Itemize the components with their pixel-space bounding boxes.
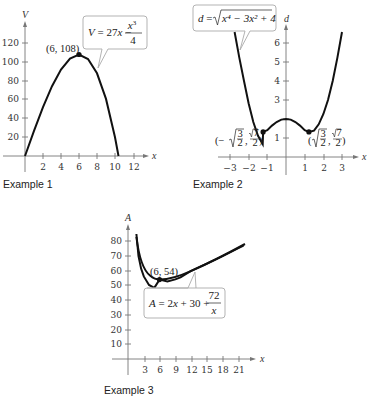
svg-text:): ) <box>342 135 346 147</box>
x-axis-label: x <box>259 353 265 364</box>
minimum-point-left <box>261 129 266 134</box>
y-tick-label: 50 <box>111 280 123 290</box>
minimum-point-label: (6, 54) <box>150 266 178 278</box>
y-tick-label: 80 <box>111 236 123 246</box>
x-tick-label: 12 <box>186 365 197 375</box>
y-tick-label: 70 <box>111 251 123 261</box>
minimum-point <box>157 277 162 282</box>
x-tick-label: 6 <box>76 162 82 172</box>
y-tick-label: 20 <box>8 132 20 142</box>
y-axis-arrow-icon <box>23 21 27 27</box>
x-tick-label: −3 <box>223 163 237 173</box>
y-ticks: 20 40 60 80 100 120 <box>2 38 28 142</box>
svg-text:2: 2 <box>320 137 325 148</box>
y-tick-label: 120 <box>2 38 19 48</box>
x-tick-label: 21 <box>233 365 244 375</box>
equation-callout: V = 27x − x3 4 <box>83 16 147 68</box>
x-tick-label: 3 <box>339 163 345 173</box>
example-1-chart: V x 20 40 60 80 100 120 2 4 6 <box>2 9 157 190</box>
example-2-chart: d x 1 3 4 5 6 −3 −2 −1 1 2 3 <box>193 5 367 190</box>
svg-text:,: , <box>245 135 248 146</box>
x-tick-label: 15 <box>201 365 213 375</box>
x-axis-arrow-icon <box>353 155 359 159</box>
example-3-chart: A x 10 20 30 40 50 60 70 80 <box>104 212 265 396</box>
example-1-caption: Example 1 <box>3 178 53 190</box>
volume-curve <box>25 55 119 157</box>
y-tick-label: 1 <box>274 133 280 143</box>
svg-text:2: 2 <box>252 137 257 148</box>
x-tick-label: 2 <box>321 163 327 173</box>
maximum-point-label: (6, 108) <box>46 43 80 55</box>
y-tick-label: 30 <box>111 310 123 320</box>
y-tick-label: 3 <box>274 95 280 105</box>
svg-text:(−: (− <box>215 135 224 147</box>
y-tick-label: 80 <box>8 76 20 86</box>
y-tick-label: 40 <box>8 113 20 123</box>
equation-numerator: 72 <box>209 289 220 301</box>
figure: V x 20 40 60 80 100 120 2 4 6 <box>0 0 382 400</box>
x-axis-label: x <box>151 150 157 161</box>
x-axis-arrow-icon <box>250 357 256 361</box>
distance-curve <box>235 32 342 144</box>
y-tick-label: 100 <box>2 57 19 67</box>
y-axis-label: d <box>284 13 290 24</box>
svg-text:(: ( <box>308 135 312 147</box>
example-2-caption: Example 2 <box>193 178 243 190</box>
minimum-point-left-label: (− 3 2 , 7 2 ) <box>215 127 263 148</box>
equation-denominator: x <box>211 304 217 316</box>
y-axis-label: V <box>22 9 30 20</box>
x-tick-label: 6 <box>157 365 163 375</box>
example-3-caption: Example 3 <box>104 384 154 396</box>
y-axis-label: A <box>124 212 132 223</box>
y-axis-arrow-icon <box>126 224 130 230</box>
y-tick-label: 6 <box>274 38 280 48</box>
svg-text:): ) <box>259 135 263 147</box>
y-ticks: 1 3 4 5 6 <box>274 38 289 143</box>
minimum-point-right <box>306 129 311 134</box>
x-tick-label: 8 <box>94 162 100 172</box>
x-tick-label: 10 <box>109 162 121 172</box>
y-tick-label: 60 <box>111 266 123 276</box>
y-tick-label: 10 <box>111 339 123 349</box>
y-tick-label: 5 <box>274 57 280 67</box>
x-tick-label: 9 <box>173 365 179 375</box>
svg-text:2: 2 <box>335 137 340 148</box>
area-curve <box>136 234 243 288</box>
y-tick-label: 60 <box>8 94 20 104</box>
equation-callout: d = x⁴ − 3x² + 4 <box>193 5 276 50</box>
svg-text:,: , <box>328 135 331 146</box>
equation-radicand: x⁴ − 3x² + 4 <box>221 12 276 24</box>
x-axis-arrow-icon <box>143 154 149 158</box>
x-tick-label: −2 <box>242 163 255 173</box>
x-tick-label: 3 <box>142 365 148 375</box>
x-tick-label: 2 <box>40 162 46 172</box>
y-tick-label: 4 <box>274 76 280 86</box>
x-tick-label: −1 <box>260 163 273 173</box>
equation-denominator: 4 <box>130 34 136 46</box>
equation-text: d = <box>198 12 212 24</box>
x-tick-label: 1 <box>302 163 308 173</box>
x-tick-label: 18 <box>217 365 229 375</box>
y-tick-label: 40 <box>111 295 123 305</box>
y-tick-label: 20 <box>111 325 123 335</box>
x-tick-label: 12 <box>128 162 139 172</box>
svg-text:2: 2 <box>237 137 242 148</box>
y-axis-arrow-icon <box>284 24 288 30</box>
x-tick-label: 4 <box>58 162 64 172</box>
equation-text: A = 2x + 30 + <box>148 297 210 309</box>
x-axis-label: x <box>361 151 367 162</box>
equation-text: V = 27x − <box>88 26 131 38</box>
